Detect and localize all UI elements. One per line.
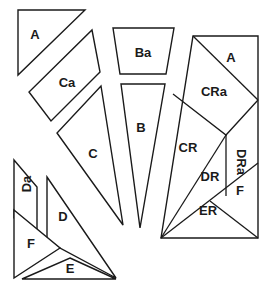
assembly-label-cr: CR bbox=[179, 140, 198, 155]
piece-label: Ca bbox=[59, 75, 76, 90]
piece-label: F bbox=[27, 236, 35, 251]
dissection-diagram: ACaCBaBDaDFE ACRaCRDRaDRFER bbox=[0, 0, 267, 295]
assembly-label-a: A bbox=[226, 50, 236, 65]
piece-label: Da bbox=[19, 175, 34, 192]
assembly-label-dra: DRa bbox=[234, 149, 249, 176]
piece-label: C bbox=[88, 146, 98, 161]
piece-label: Ba bbox=[135, 45, 152, 60]
piece-label: A bbox=[30, 27, 40, 42]
piece-c: C bbox=[57, 86, 123, 225]
piece-ba: Ba bbox=[113, 28, 174, 74]
piece-b: B bbox=[121, 84, 165, 228]
piece-label: E bbox=[66, 261, 75, 276]
assembly-label-er: ER bbox=[199, 203, 218, 218]
piece-label: B bbox=[136, 120, 145, 135]
assembly-label-cra: CRa bbox=[201, 84, 228, 99]
assembly-label-dr: DR bbox=[201, 169, 220, 184]
piece-label: D bbox=[58, 209, 67, 224]
diagram-svg: ACaCBaBDaDFE ACRaCRDRaDRFER bbox=[0, 0, 267, 295]
loose-pieces: ACaCBaBDaDFE bbox=[14, 10, 174, 279]
piece-outline bbox=[121, 84, 165, 228]
assembly-label-f: F bbox=[236, 183, 244, 198]
assembled-shape: ACRaCRDRaDRFER bbox=[161, 36, 258, 238]
